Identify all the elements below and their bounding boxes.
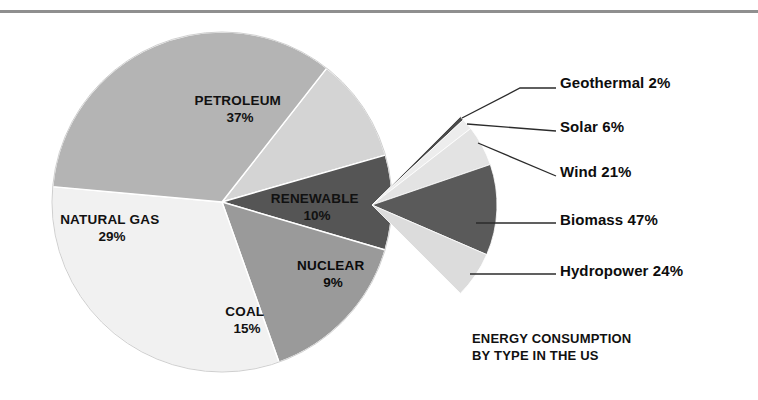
callout-label-wind: Wind 21% bbox=[560, 163, 632, 180]
chart-title-line-2: BY TYPE IN THE US bbox=[472, 347, 631, 364]
chart-title: ENERGY CONSUMPTION BY TYPE IN THE US bbox=[472, 330, 631, 364]
figure-canvas: PETROLEUM 37% NATURAL GAS 29% COAL 15% N… bbox=[0, 0, 758, 400]
callout-label-hydropower: Hydropower 24% bbox=[560, 262, 683, 279]
leader-line-geothermal bbox=[462, 88, 556, 118]
callout-label-solar: Solar 6% bbox=[560, 118, 624, 135]
chart-title-line-1: ENERGY CONSUMPTION bbox=[472, 330, 631, 347]
pie-chart-graphic: PETROLEUM 37% NATURAL GAS 29% COAL 15% N… bbox=[0, 0, 758, 400]
callout-label-biomass: Biomass 47% bbox=[560, 211, 658, 228]
leader-line-solar bbox=[467, 124, 556, 131]
callout-label-geothermal: Geothermal 2% bbox=[560, 74, 671, 91]
